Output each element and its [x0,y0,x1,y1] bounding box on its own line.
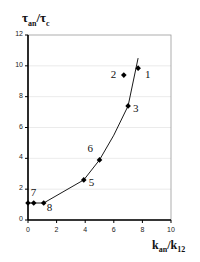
y-tick-label: 4 [19,153,23,160]
y-tick-label: 12 [15,30,23,37]
data-point-marker [125,103,131,109]
y-tick-label: 2 [19,184,23,191]
x-tick-label: 6 [112,226,116,233]
point-label: 1 [145,68,151,80]
y-tick-label: 8 [19,92,23,99]
chart-canvas [0,0,200,262]
point-label: 3 [133,102,139,114]
point-label: 7 [31,186,37,198]
data-point-marker [25,200,31,206]
y-axis-title: τan/τc [22,10,50,28]
y-tick-label: 6 [19,123,23,130]
gridlines [28,66,171,189]
x-tick-label: 10 [167,226,175,233]
data-point-marker [41,200,47,206]
y-tick-label: 0 [19,215,23,222]
data-markers [25,65,141,205]
data-point-marker [121,72,127,78]
x-tick-label: 2 [55,226,59,233]
x-tick-label: 8 [140,226,144,233]
point-label: 2 [111,68,117,80]
point-label: 6 [88,142,94,154]
data-point-marker [31,200,37,206]
x-tick-label: 0 [26,226,30,233]
x-axis-title: kan/k12 [152,238,185,254]
axis-ticks [25,35,171,223]
point-label: 5 [89,176,95,188]
point-label: 8 [47,201,53,213]
x-tick-label: 4 [83,226,87,233]
y-tick-label: 10 [15,61,23,68]
